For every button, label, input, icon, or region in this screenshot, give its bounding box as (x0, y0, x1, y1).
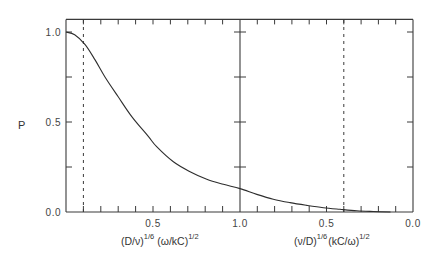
x-right-title-base2: (kC/ω) (328, 235, 359, 247)
x-left-title-sup2: 1/2 (188, 232, 198, 241)
x-tick-label-left: 1.0 (232, 218, 247, 229)
x-left-title-sup1: 1/6 (144, 232, 154, 241)
y-tick-label: 0.5 (46, 117, 61, 128)
x-right-title-sup1: 1/6 (317, 232, 327, 241)
x-tick-label-right: 0.0 (405, 218, 420, 229)
y-tick-label: 0.0 (46, 207, 61, 218)
y-axis-label: P (18, 119, 25, 131)
x-right-title-sup2: 1/2 (359, 232, 369, 241)
x-axis-title-right: (ν/D)1/6(kC/ω)1/2 (294, 232, 370, 247)
x-tick-label-right: 0.5 (319, 218, 334, 229)
x-left-title-base1: (D/ν) (121, 235, 144, 247)
x-left-title-base2: (ω/kC) (157, 235, 188, 247)
x-tick-label-left: 0.5 (145, 218, 160, 229)
x-axis-title-left: (D/ν)1/6(ω/kC)1/2 (121, 232, 199, 247)
series-line-p (66, 32, 391, 212)
y-tick-label: 1.0 (46, 27, 61, 38)
chart: P (D/ν)1/6(ω/kC)1/2 (ν/D)1/6(kC/ω)1/2 1.… (0, 0, 436, 262)
x-right-title-base1: (ν/D) (294, 235, 317, 247)
